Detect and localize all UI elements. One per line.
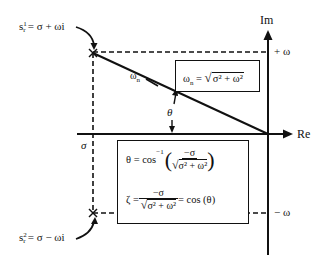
plus-omega-label: + ω <box>274 46 290 57</box>
n-subscript: n <box>137 76 141 84</box>
theta-zeta-formula-box: θ = cos−1 ( −σ √σ² + ω² ) ζ = −σ √σ² + ω… <box>117 140 249 224</box>
upper-pole-label: s1r= σ + ωi <box>19 21 65 34</box>
imag-axis-label: Im <box>260 14 273 26</box>
real-axis-label: Re <box>297 128 310 140</box>
imag-axis-arrow-icon <box>264 30 273 40</box>
equals: = <box>193 73 204 84</box>
inverse-sup: −1 <box>156 149 163 156</box>
sqrt-icon: √ <box>172 158 179 172</box>
left-paren-icon: ( <box>165 149 172 171</box>
real-axis-arrow-icon <box>283 130 293 139</box>
zeta-formula: ζ = −σ √σ² + ω² = cos (θ) <box>126 187 215 213</box>
omega-n-formula-box: ωn = √σ² + ω² <box>175 60 260 92</box>
pole-sub: r <box>23 27 27 33</box>
lower-pole-label: s2r= σ − ωi <box>19 232 65 245</box>
upper-pole-leader-arrow <box>76 27 94 45</box>
theta-lhs: θ = cos <box>126 155 156 166</box>
sigma-label: σ <box>81 140 86 151</box>
zeta-fraction: −σ √σ² + ω² <box>139 187 178 213</box>
zeta-rhs: = cos (θ) <box>178 195 215 206</box>
theta-fraction: −σ √σ² + ω² <box>172 147 207 173</box>
theta-numerator: −σ <box>182 147 197 159</box>
omega-n-vector-label: ωn <box>130 71 140 84</box>
zeta-denominator: √σ² + ω² <box>141 199 176 213</box>
theta-angle-label: θ <box>167 107 172 118</box>
omega-n-formula: ωn = √σ² + ω² <box>183 71 244 87</box>
theta-denominator: √σ² + ω² <box>172 159 207 173</box>
lower-leader-arrowhead-icon <box>91 217 98 224</box>
sqrt-content: σ² + ω² <box>212 72 244 84</box>
omega-symbol: ω <box>183 73 190 84</box>
pole-rhs: = σ + ωi <box>28 20 65 32</box>
omega-symbol: ω <box>130 70 137 81</box>
sqrt-content: σ² + ω² <box>147 199 176 211</box>
zeta-lhs: ζ = <box>126 195 139 206</box>
pole-sub: r <box>23 238 27 244</box>
minus-omega-label: − ω <box>274 207 290 218</box>
right-paren-icon: ) <box>207 149 214 171</box>
lower-pole-leader-arrow <box>76 222 94 239</box>
sqrt-icon: √ <box>205 70 212 85</box>
theta-lower-arrowhead-icon <box>169 126 175 133</box>
pole-rhs: = σ − ωi <box>28 231 65 243</box>
sqrt-content: σ² + ω² <box>179 159 208 171</box>
theta-formula: θ = cos−1 ( −σ √σ² + ω² ) <box>126 147 215 173</box>
